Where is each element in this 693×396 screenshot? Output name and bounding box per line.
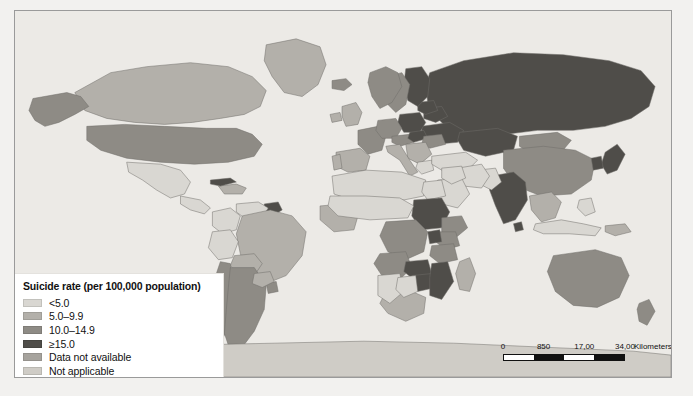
legend-title: Suicide rate (per 100,000 population) bbox=[23, 280, 215, 292]
legend-swatch bbox=[23, 299, 42, 307]
legend-item-label: <5.0 bbox=[49, 297, 69, 309]
legend-swatch bbox=[23, 326, 42, 334]
legend-swatch bbox=[23, 340, 42, 348]
legend-item: Not applicable bbox=[23, 364, 215, 378]
map-region[interactable] bbox=[398, 112, 426, 132]
map-legend: Suicide rate (per 100,000 population) <5… bbox=[15, 273, 224, 378]
legend-item-label: 5.0–9.9 bbox=[49, 310, 83, 322]
scalebar-tick-label: 850 bbox=[537, 342, 550, 351]
map-region[interactable] bbox=[330, 112, 342, 122]
map-region[interactable] bbox=[422, 180, 446, 200]
legend-item-label: Data not available bbox=[49, 351, 131, 363]
map-region[interactable] bbox=[428, 230, 442, 244]
scalebar-graphic bbox=[503, 354, 625, 361]
legend-item-label: ≥15.0 bbox=[49, 338, 75, 350]
scalebar-tick-label: 0 bbox=[501, 342, 505, 351]
map-figure: Suicide rate (per 100,000 population) <5… bbox=[0, 0, 693, 396]
map-region[interactable] bbox=[328, 196, 414, 220]
legend-item: 5.0–9.9 bbox=[23, 310, 215, 324]
scalebar-tick-label: 34,00 bbox=[615, 342, 635, 351]
scalebar-labels: 085017,0034,00Kilometers bbox=[503, 342, 672, 354]
legend-item-label: Not applicable bbox=[49, 365, 114, 377]
legend-item-label: 10.0–14.9 bbox=[49, 324, 95, 336]
scalebar-segment bbox=[594, 355, 624, 360]
map-scalebar: 085017,0034,00Kilometers bbox=[503, 342, 672, 361]
legend-items: <5.05.0–9.910.0–14.9≥15.0Data not availa… bbox=[23, 296, 215, 378]
scalebar-units-label: Kilometers bbox=[634, 342, 672, 351]
map-region[interactable] bbox=[591, 156, 603, 170]
scalebar-segment bbox=[534, 355, 564, 360]
legend-swatch bbox=[23, 353, 42, 361]
map-region[interactable] bbox=[332, 154, 342, 170]
map-frame: Suicide rate (per 100,000 population) <5… bbox=[14, 10, 672, 378]
legend-swatch bbox=[23, 367, 42, 375]
legend-item: <5.0 bbox=[23, 296, 215, 310]
map-region[interactable] bbox=[513, 222, 523, 232]
legend-item: 10.0–14.9 bbox=[23, 323, 215, 337]
legend-item: ≥15.0 bbox=[23, 337, 215, 351]
scalebar-segment bbox=[504, 355, 534, 360]
legend-swatch bbox=[23, 312, 42, 320]
scalebar-segment bbox=[564, 355, 594, 360]
legend-item: Data not available bbox=[23, 350, 215, 364]
scalebar-tick-label: 17,00 bbox=[574, 342, 594, 351]
